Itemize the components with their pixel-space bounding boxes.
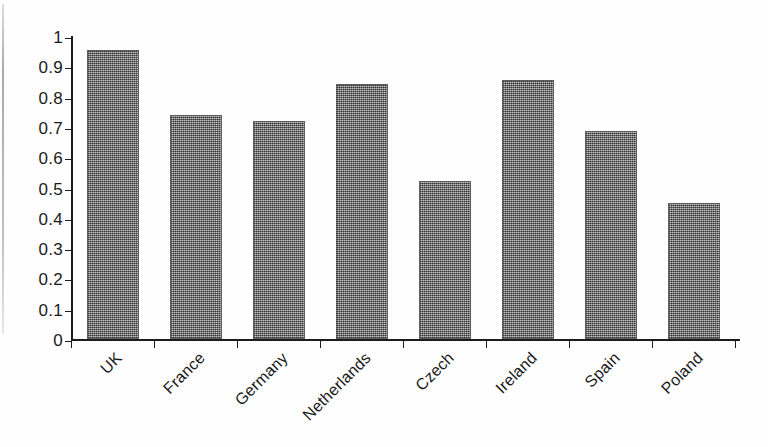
x-tick-mark (154, 341, 155, 348)
y-tick-label: 0.2 (38, 270, 63, 290)
bar-france (170, 115, 222, 339)
y-tick-mark (65, 250, 71, 251)
y-tick-label: 1 (53, 28, 63, 48)
y-tick-mark (65, 159, 71, 160)
bar-netherlands (336, 84, 388, 339)
x-tick-mark (486, 341, 487, 348)
x-tick-mark (569, 341, 570, 348)
y-tick-mark (65, 190, 71, 191)
bar-chart: 0 0.1 0.2 0.3 0.4 0.5 0.6 0.7 0.8 0.9 1 (0, 0, 768, 447)
y-tick-mark (65, 311, 71, 312)
bar-poland (668, 203, 720, 339)
y-tick-label: 0.6 (38, 149, 63, 169)
y-tick-mark (65, 38, 71, 39)
y-tick-label: 0.9 (38, 58, 63, 78)
y-tick-mark (65, 129, 71, 130)
x-tick-mark (403, 341, 404, 348)
y-tick-mark (65, 220, 71, 221)
y-tick-label: 0.3 (38, 240, 63, 260)
plot-area: 0 0.1 0.2 0.3 0.4 0.5 0.6 0.7 0.8 0.9 1 (71, 38, 740, 341)
y-tick-label: 0.7 (38, 119, 63, 139)
bar-ireland (502, 80, 554, 339)
bar-uk (87, 50, 139, 339)
x-tick-mark (237, 341, 238, 348)
bar-germany (253, 121, 305, 339)
y-tick-label: 0.5 (38, 180, 63, 200)
x-tick-mark (320, 341, 321, 348)
bar-czech (419, 181, 471, 339)
y-tick-mark (65, 99, 71, 100)
y-tick-mark (65, 68, 71, 69)
x-tick-mark (652, 341, 653, 348)
page-scan-edge-artifact (2, 4, 4, 334)
x-tick-mark (71, 341, 72, 348)
y-tick-label: 0.4 (38, 210, 63, 230)
x-tick-label-uk: UK (0, 349, 125, 447)
y-axis-line (71, 36, 73, 341)
bar-spain (585, 131, 637, 339)
y-tick-label: 0.1 (38, 301, 63, 321)
y-tick-label: 0 (53, 331, 63, 351)
y-tick-label: 0.8 (38, 89, 63, 109)
x-axis-line (71, 339, 740, 341)
x-tick-mark (735, 341, 736, 348)
y-tick-mark (65, 280, 71, 281)
